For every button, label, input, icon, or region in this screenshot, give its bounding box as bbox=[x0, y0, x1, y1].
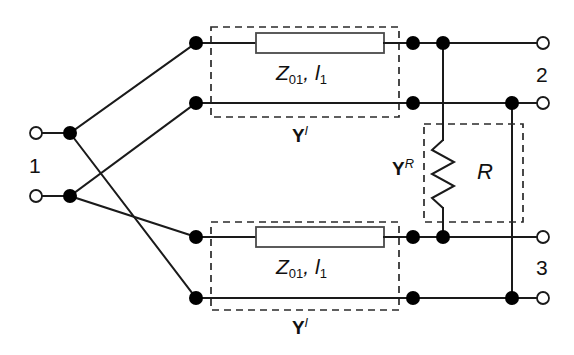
tline-top-z-sub: 01 bbox=[289, 72, 303, 87]
resistor-label: R bbox=[477, 161, 493, 183]
resistor-zigzag bbox=[432, 140, 454, 208]
junction-dot-port3-lower-tap bbox=[505, 291, 519, 305]
wire-p1bottom-to-tlbottom-upper bbox=[70, 196, 196, 237]
tline-top-l: l bbox=[315, 61, 320, 84]
terminal-port1-top[interactable] bbox=[30, 127, 42, 139]
tline-top-adm-sup: l bbox=[305, 123, 308, 138]
port-label-3: 3 bbox=[536, 257, 548, 278]
terminal-port2-bottom[interactable] bbox=[537, 97, 549, 109]
tline-bottom-adm-sup: l bbox=[305, 315, 308, 330]
wire-p1top-to-tltop-upper bbox=[70, 43, 196, 133]
resistor-adm-sup: R bbox=[405, 156, 414, 171]
junction-dot-resistor-top bbox=[436, 36, 450, 50]
terminal-port2-top[interactable] bbox=[537, 37, 549, 49]
tline-bottom-z: Z bbox=[276, 255, 289, 278]
resistor-adm-y: Y bbox=[392, 158, 405, 179]
junction-dot-tltop-in-upper bbox=[189, 36, 203, 50]
junction-dot-port2-lower-tap bbox=[505, 96, 519, 110]
junction-dot-tlbottom-in-lower bbox=[189, 291, 203, 305]
junction-dot-p1-bottom bbox=[63, 189, 77, 203]
circuit-diagram-canvas: 1 2 3 Z01, l1 Yl Z01, l1 Yl YR R bbox=[0, 0, 574, 355]
tline-top-label: Z01, l1 bbox=[276, 62, 327, 83]
tline-bottom-l-sub: 1 bbox=[320, 266, 327, 281]
tline-bottom-admittance-label: Yl bbox=[292, 318, 308, 337]
terminal-port3-bottom[interactable] bbox=[537, 292, 549, 304]
wire-p1bottom-to-tltop-lower bbox=[70, 103, 196, 196]
tline-bottom-label: Z01, l1 bbox=[276, 256, 327, 277]
tline-top-comma: , bbox=[303, 61, 315, 84]
tline-bottom-z-sub: 01 bbox=[289, 266, 303, 281]
tline-top-l-sub: 1 bbox=[320, 72, 327, 87]
tline-bottom-l: l bbox=[315, 255, 320, 278]
junction-dot-resistor-bottom bbox=[436, 230, 450, 244]
terminal-port3-top[interactable] bbox=[537, 231, 549, 243]
tline-bottom-comma: , bbox=[303, 255, 315, 278]
junction-dot-tltop-in-lower bbox=[189, 96, 203, 110]
junction-dot-tlbottom-out-lower bbox=[406, 291, 420, 305]
tline-top-adm-y: Y bbox=[292, 125, 305, 146]
junction-dot-p1-top bbox=[63, 126, 77, 140]
tline-bottom-element bbox=[256, 227, 384, 247]
junction-dot-tltop-out-upper bbox=[406, 36, 420, 50]
resistor-dashed-boundary bbox=[424, 124, 523, 222]
port-label-1: 1 bbox=[29, 155, 41, 176]
resistor-admittance-label: YR bbox=[392, 159, 414, 178]
tline-top-admittance-label: Yl bbox=[292, 126, 308, 145]
tline-bottom-adm-y: Y bbox=[292, 317, 305, 338]
tline-top-element bbox=[256, 33, 384, 53]
terminal-port1-bottom[interactable] bbox=[30, 190, 42, 202]
junction-dot-tltop-out-lower bbox=[406, 96, 420, 110]
junction-dot-tlbottom-in-upper bbox=[189, 230, 203, 244]
tline-top-z: Z bbox=[276, 61, 289, 84]
junction-dot-tlbottom-out-upper bbox=[406, 230, 420, 244]
port-label-2: 2 bbox=[536, 64, 548, 85]
